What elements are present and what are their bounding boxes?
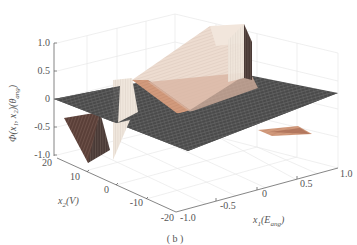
x2-tick-labels: 20 10 0 -10 -20 <box>42 157 174 223</box>
surface-lower-wall <box>113 120 130 160</box>
x2-tick-10: 10 <box>70 171 80 182</box>
x2-tick-0: 0 <box>104 184 109 195</box>
x1-tick-neg-0-5: -0.5 <box>220 200 236 211</box>
z-axis-label: Φ(x₁, x₂)(θang) <box>7 84 21 142</box>
x1-axis-label: x1(Eang) <box>252 214 285 228</box>
z-tick-0-5: 0.5 <box>38 65 51 76</box>
z-tick-neg-0-5: -0.5 <box>34 121 50 132</box>
x1-tick-1-0: 1.0 <box>340 168 353 179</box>
z-tick-1-0: 1.0 <box>38 37 51 48</box>
x2-tick-neg-10: -10 <box>130 197 143 208</box>
figure-caption: ( b ) <box>167 233 184 245</box>
x2-tick-20: 20 <box>42 157 52 168</box>
z-tick-labels: 1.0 0.5 0 -0.5 -1.0 <box>34 37 50 160</box>
x1-tick-neg-1-0: -1.0 <box>180 212 196 223</box>
surface-plot-3d: 1.0 0.5 0 -0.5 -1.0 20 10 0 -10 -20 -1.0… <box>0 0 357 245</box>
x1-tick-0: 0 <box>262 188 267 199</box>
x1-tick-0-5: 0.5 <box>300 178 313 189</box>
x2-axis-label: x2(V) <box>57 195 79 209</box>
x2-tick-neg-20: -20 <box>161 212 174 223</box>
surface-negative-wedge-right <box>258 126 312 136</box>
z-tick-0: 0 <box>45 93 50 104</box>
